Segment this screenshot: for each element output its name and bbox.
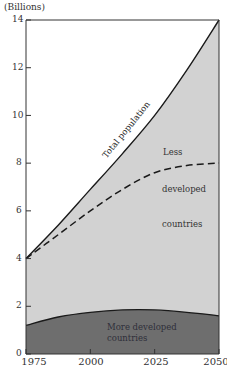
y-tick-10: 10 (12, 110, 23, 120)
y-tick-12: 12 (12, 62, 23, 72)
y-axis-label: (Billions) (4, 2, 45, 12)
more-developed-label-2: countries (107, 333, 147, 344)
y-tick-4: 4 (16, 253, 22, 263)
less-developed-label-1: Less (163, 147, 182, 157)
less-developed-label-3: countries (162, 219, 202, 229)
y-tick-6: 6 (16, 205, 22, 215)
more-developed-label-1: More developed (107, 322, 177, 333)
x-tick-2050: 2050 (196, 356, 227, 367)
y-tick-8: 8 (16, 157, 22, 167)
x-tick-1975: 1975 (14, 356, 54, 367)
x-tick-2025: 2025 (136, 356, 176, 367)
y-tick-2: 2 (16, 300, 22, 310)
population-chart: (Billions) 14 12 10 8 6 4 2 0 1975 2000 … (0, 0, 227, 368)
y-tick-14: 14 (12, 14, 23, 24)
less-developed-label-2: developed (162, 184, 206, 194)
x-tick-2000: 2000 (71, 356, 111, 367)
